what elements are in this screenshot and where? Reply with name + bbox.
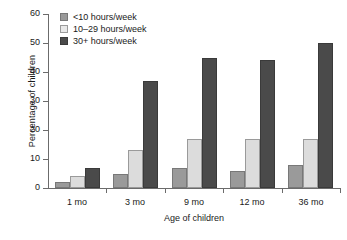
legend-item-label: 30+ hours/week — [73, 36, 137, 46]
bar — [85, 168, 100, 188]
bar — [318, 43, 333, 188]
bar — [230, 171, 245, 188]
x-axis-separator — [223, 188, 224, 193]
y-axis-tick: 40 — [43, 72, 48, 73]
bar — [202, 58, 217, 189]
y-axis-tick: 30 — [43, 101, 48, 102]
x-axis-separator — [106, 188, 107, 193]
legend-item[interactable]: 10–29 hours/week — [60, 23, 147, 34]
legend-item[interactable]: 30+ hours/week — [60, 35, 147, 46]
y-axis-tick-label: 30 — [14, 95, 40, 105]
x-axis-line — [48, 188, 340, 189]
bar — [288, 165, 303, 188]
bar — [260, 60, 275, 188]
legend-swatch-icon — [60, 13, 68, 21]
legend-item-label: 10–29 hours/week — [73, 24, 147, 34]
bar-group — [288, 14, 333, 188]
legend-swatch-icon — [60, 25, 68, 33]
bar — [303, 139, 318, 188]
y-axis-tick: 20 — [43, 130, 48, 131]
x-axis-tick-label: 12 mo — [223, 197, 281, 207]
legend-swatch-icon — [60, 37, 68, 45]
bar — [172, 168, 187, 188]
bar — [113, 174, 128, 189]
x-axis-tick-label: 36 mo — [282, 197, 340, 207]
x-axis-separator — [165, 188, 166, 193]
x-axis-separator — [282, 188, 283, 193]
bar — [187, 139, 202, 188]
y-axis-tick-label: 60 — [14, 8, 40, 18]
bar — [245, 139, 260, 188]
x-axis-tick-label: 1 mo — [48, 197, 106, 207]
x-axis-tick-label: 9 mo — [165, 197, 223, 207]
y-axis-tick-label: 10 — [14, 153, 40, 163]
y-axis-tick: 60 — [43, 14, 48, 15]
y-axis-tick-label: 0 — [14, 182, 40, 192]
bar-chart: Percentage of children 0102030405060 1 m… — [0, 0, 347, 240]
bar — [55, 182, 70, 188]
y-axis-tick-label: 20 — [14, 124, 40, 134]
bar — [143, 81, 158, 188]
y-axis-tick: 0 — [43, 188, 48, 189]
x-axis-separator — [340, 188, 341, 193]
y-axis-tick: 10 — [43, 159, 48, 160]
bar-group — [172, 14, 217, 188]
y-axis-tick-label: 50 — [14, 37, 40, 47]
bar — [70, 176, 85, 188]
y-axis-tick: 50 — [43, 43, 48, 44]
bar-group — [230, 14, 275, 188]
legend-item[interactable]: <10 hours/week — [60, 11, 147, 22]
bar — [128, 150, 143, 188]
x-axis-title: Age of children — [48, 213, 340, 223]
y-axis-line — [48, 14, 49, 188]
legend-item-label: <10 hours/week — [73, 12, 137, 22]
legend: <10 hours/week10–29 hours/week30+ hours/… — [60, 11, 147, 47]
y-axis-tick-label: 40 — [14, 66, 40, 76]
x-axis-tick-label: 3 mo — [106, 197, 164, 207]
